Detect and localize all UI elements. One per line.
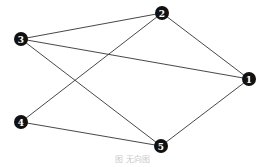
node-2: 2 <box>155 6 169 20</box>
node-3: 3 <box>14 32 28 46</box>
edge-3-5 <box>21 39 161 146</box>
node-1: 1 <box>242 72 256 86</box>
node-label: 3 <box>18 35 24 45</box>
edge-5-1 <box>161 79 249 146</box>
edges <box>21 13 249 146</box>
nodes: 12345 <box>14 6 256 153</box>
figure-caption: 图 无向图 <box>0 153 265 164</box>
graph-diagram: 12345 <box>0 0 265 167</box>
node-label: 2 <box>159 9 165 19</box>
node-label: 1 <box>246 75 252 85</box>
edge-2-4 <box>21 13 162 122</box>
node-4: 4 <box>14 115 28 129</box>
node-5: 5 <box>154 139 168 153</box>
edge-4-5 <box>21 122 161 146</box>
edge-3-2 <box>21 13 162 39</box>
edge-2-1 <box>162 13 249 79</box>
node-label: 5 <box>158 142 164 152</box>
edge-3-1 <box>21 39 249 79</box>
node-label: 4 <box>18 118 24 128</box>
